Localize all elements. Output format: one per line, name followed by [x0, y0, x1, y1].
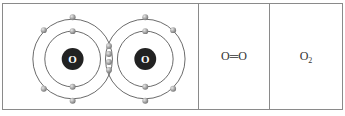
- electron-icon: [41, 86, 47, 92]
- electron-shell-diagram: O O: [3, 4, 198, 109]
- molecular-formula-cell: O2: [270, 4, 342, 109]
- structural-formula-cell: O═O: [199, 4, 270, 109]
- electron-icon: [170, 86, 176, 92]
- right-oxygen-atom: O: [105, 14, 185, 104]
- structural-formula: O═O: [221, 49, 247, 64]
- shared-electron-pairs: [106, 43, 112, 73]
- molecular-formula: O2: [300, 49, 313, 65]
- electron-icon: [70, 84, 76, 90]
- electron-icon: [70, 28, 76, 34]
- electron-icon: [142, 84, 148, 90]
- formula-subscript: 2: [308, 56, 312, 65]
- atom-symbol: O: [141, 53, 150, 65]
- double-bond: ═: [230, 49, 239, 63]
- left-oxygen-atom: O: [33, 14, 113, 104]
- electron-icon: [106, 51, 112, 57]
- electron-icon: [70, 98, 76, 104]
- electron-icon: [142, 14, 148, 20]
- electron-icon: [41, 27, 47, 33]
- electron-icon: [142, 98, 148, 104]
- electron-icon: [142, 28, 148, 34]
- electron-shell-diagram-cell: O O: [3, 4, 199, 109]
- left-atom-label: O: [221, 49, 230, 63]
- right-atom-label: O: [238, 49, 247, 63]
- electron-icon: [106, 67, 112, 73]
- electron-icon: [70, 14, 76, 20]
- atom-symbol: O: [68, 53, 77, 65]
- oxygen-molecule-table: O O: [2, 3, 343, 110]
- electron-icon: [106, 59, 112, 65]
- electron-icon: [170, 27, 176, 33]
- electron-icon: [106, 43, 112, 49]
